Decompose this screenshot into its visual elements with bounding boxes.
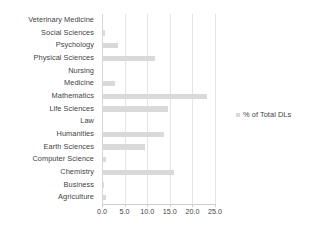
y-axis-tick-label: Psychology	[0, 39, 98, 52]
x-axis-tick-label: 15.0	[163, 207, 177, 217]
y-axis-tick-label: Nursing	[0, 65, 98, 78]
legend-swatch-icon	[236, 113, 240, 117]
bar-row	[102, 90, 215, 103]
y-axis-tick-label: Computer Science	[0, 153, 98, 166]
bar	[102, 170, 174, 175]
bar-row	[102, 191, 215, 204]
bar	[102, 94, 207, 99]
legend: % of Total DLs	[236, 110, 291, 119]
y-axis-tick-label: Earth Sciences	[0, 141, 98, 154]
x-axis-line	[102, 204, 215, 205]
bar	[102, 81, 115, 86]
y-axis-tick-label: Social Sciences	[0, 27, 98, 40]
bar-row	[102, 39, 215, 52]
bar	[102, 157, 106, 162]
bar-row	[102, 103, 215, 116]
x-axis-tick-label: 20.0	[185, 207, 199, 217]
bars-layer	[102, 14, 215, 204]
bar-row	[102, 27, 215, 40]
y-axis-tick-label: Life Sciences	[0, 103, 98, 116]
x-axis-tick-label: 10.0	[140, 207, 154, 217]
gridline-25	[215, 14, 216, 204]
bar	[102, 106, 168, 111]
y-axis-tick-label: Physical Sciences	[0, 52, 98, 65]
bar	[102, 132, 164, 137]
bar	[102, 195, 106, 200]
y-axis-tick-label: Humanities	[0, 128, 98, 141]
bar-row	[102, 65, 215, 78]
y-axis-tick-label: Chemistry	[0, 166, 98, 179]
x-axis-tick-label: 25.0	[208, 207, 222, 217]
bar-row	[102, 14, 215, 27]
bar-row	[102, 153, 215, 166]
x-axis-tick-labels: 0.0 5.0 10.0 15.0 20.0 25.0	[0, 207, 318, 221]
y-axis-tick-label: Law	[0, 115, 98, 128]
y-axis-tick-label: Mathematics	[0, 90, 98, 103]
y-axis-tick-label: Veterinary Medicine	[0, 14, 98, 27]
bar-row	[102, 141, 215, 154]
legend-label: % of Total DLs	[243, 110, 291, 119]
bar	[102, 56, 155, 61]
bar	[102, 43, 118, 48]
bar-row	[102, 166, 215, 179]
bar-chart: Veterinary Medicine Social Sciences Psyc…	[0, 0, 318, 230]
y-axis-tick-label: Medicine	[0, 77, 98, 90]
bar-row	[102, 115, 215, 128]
bar	[102, 182, 104, 187]
bar-row	[102, 128, 215, 141]
y-axis-tick-label: Agriculture	[0, 191, 98, 204]
bar	[102, 30, 105, 35]
bar-row	[102, 77, 215, 90]
bar-row	[102, 52, 215, 65]
x-axis-tick-label: 0.0	[97, 207, 107, 217]
bar	[102, 144, 145, 149]
x-axis-tick-label: 5.0	[120, 207, 130, 217]
y-axis-category-labels: Veterinary Medicine Social Sciences Psyc…	[0, 14, 98, 204]
plot-area	[102, 14, 215, 204]
bar-row	[102, 179, 215, 192]
y-axis-tick-label: Business	[0, 179, 98, 192]
